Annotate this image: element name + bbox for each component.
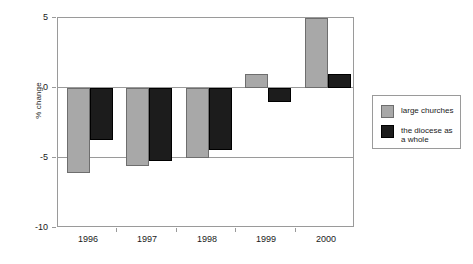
bar-large-churches-2000 [305,18,328,88]
x-tick-mark-1 [116,228,117,232]
legend-label-diocese: the diocese as a whole [401,125,453,144]
bar-diocese-1998 [209,88,232,150]
legend-entry-large-churches: large churches [381,105,453,118]
bar-large-churches-1998 [186,88,209,158]
chart-legend: large churches the diocese as a whole [372,95,461,149]
y-axis-label: % change [34,61,43,141]
legend-swatch-diocese [381,125,394,138]
bar-large-churches-1997 [126,88,149,166]
plot-area [57,17,354,227]
legend-swatch-large-churches [381,105,394,118]
y-tick-label-5: 5 [0,12,48,22]
y-tick-label-0: 0 [0,82,48,92]
bar-diocese-1996 [90,88,113,140]
y-tick-label-minus5: -5 [0,152,48,162]
x-tick-mark-3 [235,228,236,232]
legend-label-large-churches: large churches [401,105,453,115]
x-tick-label-1997: 1997 [117,234,177,244]
bar-large-churches-1996 [67,88,90,173]
bar-large-churches-1999 [245,74,268,88]
y-tick-label-minus10: -10 [0,222,48,232]
legend-entry-diocese: the diocese as a whole [381,125,453,144]
y-tick-mark-0 [52,87,56,88]
x-tick-label-1996: 1996 [58,234,118,244]
bar-diocese-2000 [328,74,351,88]
x-tick-mark-4 [295,228,296,232]
x-tick-label-2000: 2000 [296,234,356,244]
bar-diocese-1999 [268,88,291,102]
x-tick-label-1998: 1998 [177,234,237,244]
bar-diocese-1997 [149,88,172,161]
y-tick-mark-minus10 [52,227,56,228]
chart-figure: % change 5 0 -5 -10 1996 1997 1998 199 [0,0,473,264]
x-tick-label-1999: 1999 [236,234,296,244]
y-tick-mark-minus5 [52,157,56,158]
y-tick-mark-5 [52,17,56,18]
x-tick-mark-2 [176,228,177,232]
